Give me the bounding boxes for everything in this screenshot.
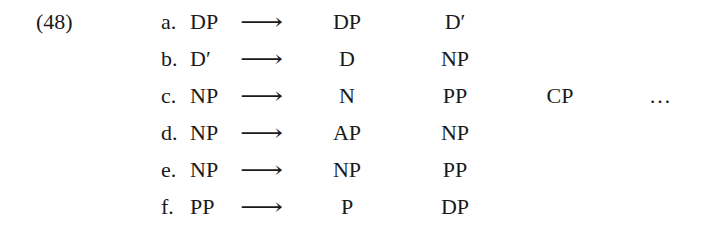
right-arrow-icon: ⟶	[240, 46, 283, 72]
rule-label: c.	[161, 83, 176, 109]
rule-label: d.	[161, 120, 178, 146]
rule-rhs-2: DP	[430, 194, 480, 220]
rule-rhs-2: NP	[430, 46, 480, 72]
rule-label: b.	[161, 46, 178, 72]
rule-rhs-2: D′	[430, 9, 480, 35]
rule-lhs: D′	[190, 46, 211, 72]
right-arrow-icon: ⟶	[240, 83, 283, 109]
rule-rhs-1: AP	[322, 120, 372, 146]
rule-lhs: PP	[190, 194, 214, 220]
right-arrow-icon: ⟶	[240, 120, 283, 146]
rule-e: e. NP ⟶ NP PP	[0, 157, 708, 183]
rule-rhs-1: NP	[322, 157, 372, 183]
rule-rhs-1: DP	[322, 9, 372, 35]
rule-a: a. DP ⟶ DP D′	[0, 9, 708, 35]
rule-d: d. NP ⟶ AP NP	[0, 120, 708, 146]
rule-lhs: DP	[190, 9, 218, 35]
rule-rhs-1: N	[322, 83, 372, 109]
rule-lhs: NP	[190, 83, 218, 109]
rule-label: a.	[161, 9, 176, 35]
rule-c: c. NP ⟶ N PP CP …	[0, 83, 708, 109]
rule-label: f.	[161, 194, 174, 220]
right-arrow-icon: ⟶	[240, 9, 283, 35]
rule-label: e.	[161, 157, 176, 183]
right-arrow-icon: ⟶	[240, 157, 283, 183]
rule-b: b. D′ ⟶ D NP	[0, 46, 708, 72]
ellipsis: …	[635, 83, 685, 109]
rule-rhs-3: CP	[535, 83, 585, 109]
rule-lhs: NP	[190, 120, 218, 146]
right-arrow-icon: ⟶	[240, 194, 283, 220]
rule-rhs-1: P	[322, 194, 372, 220]
rule-rhs-2: PP	[430, 83, 480, 109]
rule-rhs-1: D	[322, 46, 372, 72]
rule-rhs-2: NP	[430, 120, 480, 146]
rule-rhs-2: PP	[430, 157, 480, 183]
rule-f: f. PP ⟶ P DP	[0, 194, 708, 220]
rule-lhs: NP	[190, 157, 218, 183]
